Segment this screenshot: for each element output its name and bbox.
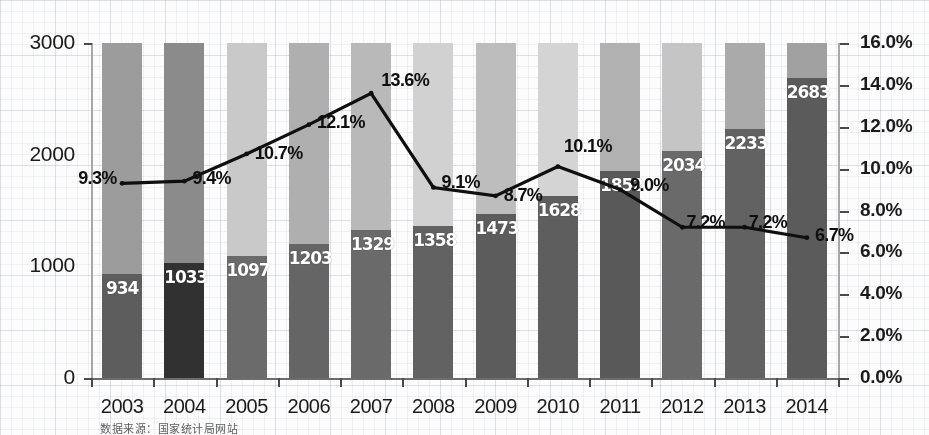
line-point-label-2014: 6.7% (815, 225, 854, 246)
x-axis-tick-2010 (527, 378, 529, 387)
x-axis-label-2007: 2007 (340, 395, 402, 418)
left-axis-tick-label-2000: 2000 (0, 142, 75, 166)
x-axis-label-2008: 2008 (402, 395, 464, 418)
x-axis-tick-2007 (340, 378, 342, 387)
line-point-label-2003: 9.3% (78, 168, 117, 189)
x-axis-tick-2011 (589, 378, 591, 387)
x-axis-tick-2008 (402, 378, 404, 387)
right-axis-tick-label-0.0%: 0.0% (860, 366, 902, 388)
right-axis-tick-label-10.0%: 10.0% (860, 157, 912, 179)
x-axis-label-2011: 2011 (589, 395, 651, 418)
x-axis-tick-2005 (216, 378, 218, 387)
line-point-label-2006: 12.1% (317, 112, 365, 133)
x-axis-label-2004: 2004 (153, 395, 215, 418)
x-axis-label-2014: 2014 (776, 395, 838, 418)
line-point-label-2004: 9.4% (192, 168, 231, 189)
x-axis-label-2013: 2013 (714, 395, 776, 418)
line-point-label-2013: 7.2% (749, 212, 788, 233)
line-point-label-2010: 10.1% (564, 136, 612, 157)
left-axis-tick-3000 (84, 43, 92, 45)
x-axis-label-2005: 2005 (216, 395, 278, 418)
right-axis-tick-label-8.0%: 8.0% (860, 199, 902, 221)
right-axis-tick-8.0% (840, 211, 849, 213)
x-axis-label-2009: 2009 (465, 395, 527, 418)
right-axis-tick-2.0% (840, 336, 849, 338)
line-point-label-2007: 13.6% (381, 70, 429, 91)
right-axis-tick-16.0% (840, 43, 849, 45)
x-axis-label-2010: 2010 (527, 395, 589, 418)
left-axis-tick-label-1000: 1000 (0, 253, 75, 277)
line-point-label-2005: 10.7% (255, 143, 303, 164)
x-axis-label-2003: 2003 (91, 395, 153, 418)
right-axis-tick-4.0% (840, 294, 849, 296)
right-axis-tick-6.0% (840, 252, 849, 254)
right-axis-tick-label-16.0%: 16.0% (860, 31, 912, 53)
line-point-label-2008: 9.1% (441, 172, 480, 193)
line-point-label-2009: 8.7% (504, 185, 543, 206)
x-axis-tick-end (838, 378, 840, 387)
right-axis-tick-14.0% (840, 85, 849, 87)
left-axis-tick-label-0: 0 (0, 365, 75, 389)
x-axis-tick-2012 (651, 378, 653, 387)
x-axis-tick-2006 (278, 378, 280, 387)
right-axis-tick-label-14.0%: 14.0% (860, 73, 912, 95)
x-axis-label-2012: 2012 (651, 395, 713, 418)
x-axis-tick-2013 (714, 378, 716, 387)
x-axis-label-2006: 2006 (278, 395, 340, 418)
x-axis-tick-2004 (153, 378, 155, 387)
right-axis-tick-label-6.0%: 6.0% (860, 240, 902, 262)
x-axis-tick-2014 (776, 378, 778, 387)
line-point-label-2012: 7.2% (686, 212, 725, 233)
right-axis-tick-12.0% (840, 127, 849, 129)
right-axis-tick-0.0% (840, 378, 849, 380)
dual-axis-bar-line-chart: 9341033109712031329135814731628185220342… (0, 0, 929, 435)
right-axis-tick-10.0% (840, 169, 849, 171)
right-axis-tick-label-4.0%: 4.0% (860, 282, 902, 304)
growth-rate-line (0, 0, 929, 435)
right-axis-tick-label-2.0%: 2.0% (860, 324, 902, 346)
left-axis-tick-label-3000: 3000 (0, 30, 75, 54)
x-axis-tick-2003 (91, 378, 93, 387)
right-axis-tick-label-12.0%: 12.0% (860, 115, 912, 137)
x-axis-tick-2009 (465, 378, 467, 387)
line-point-label-2011: 9.0% (630, 175, 669, 196)
